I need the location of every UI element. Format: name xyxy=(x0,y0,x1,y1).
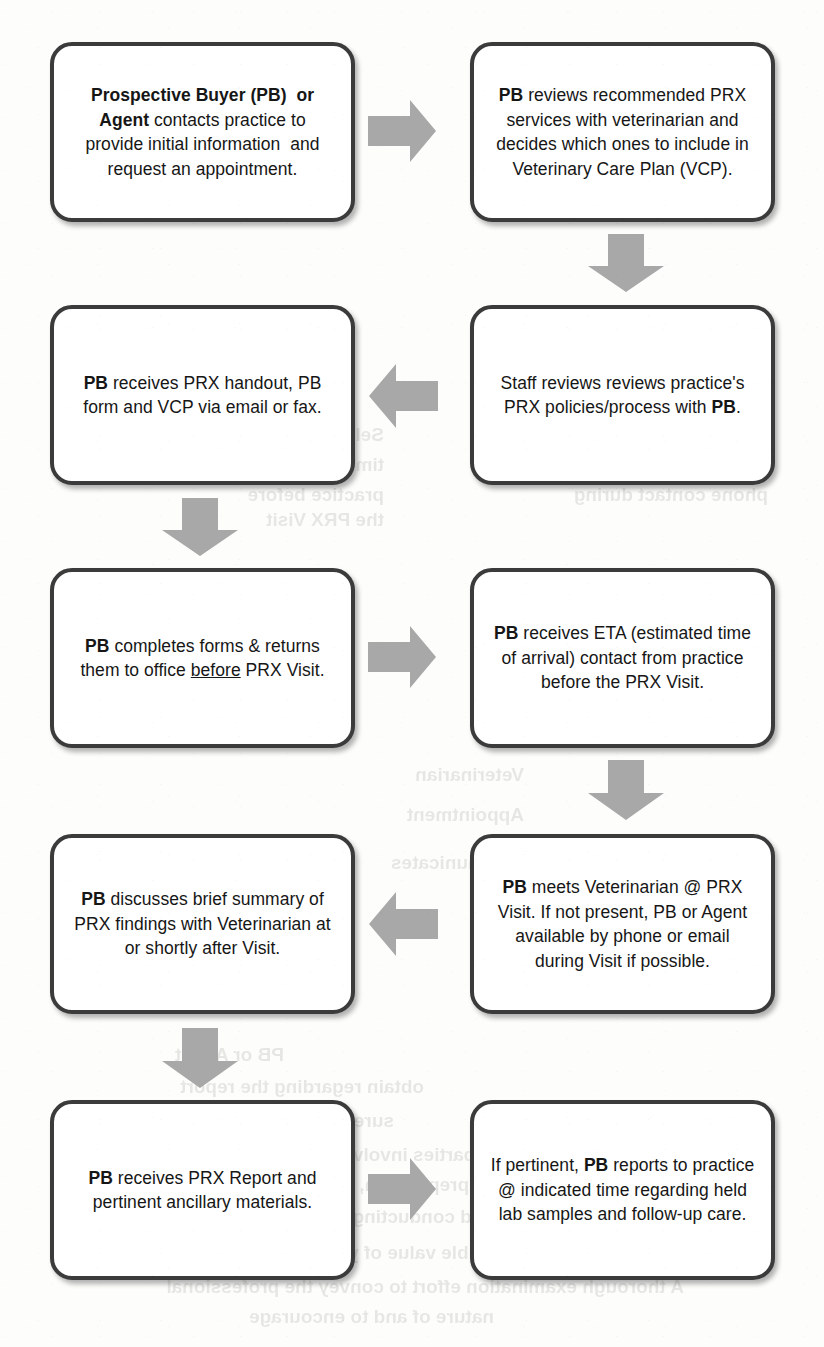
arrow-right-5 xyxy=(366,624,438,690)
arrow-down-6 xyxy=(586,758,666,822)
flow-node-9-text: PB receives PRX Report and pertinent anc… xyxy=(70,1166,335,1215)
arrow-down-4 xyxy=(160,496,240,558)
flow-node-8[interactable]: PB discusses brief summary of PRX findin… xyxy=(50,834,355,1014)
flow-node-2-text: PB reviews recommended PRX services with… xyxy=(490,83,755,181)
flow-node-5[interactable]: PB completes forms & returns them to off… xyxy=(50,568,355,748)
flow-node-1[interactable]: Prospective Buyer (PB) or Agent contacts… xyxy=(50,42,355,222)
flow-node-8-text: PB discusses brief summary of PRX findin… xyxy=(70,887,335,961)
arrow-right-9 xyxy=(366,1156,438,1222)
flow-node-7[interactable]: PB meets Veterinarian @ PRX Visit. If no… xyxy=(470,834,775,1014)
bleedthrough-line: the PRX Visit xyxy=(266,505,384,535)
flow-node-4[interactable]: PB receives PRX handout, PB form and VCP… xyxy=(50,305,355,485)
flow-node-2[interactable]: PB reviews recommended PRX services with… xyxy=(470,42,775,222)
arrow-right-1 xyxy=(366,98,438,164)
arrow-down-8 xyxy=(160,1026,240,1090)
flow-node-7-text: PB meets Veterinarian @ PRX Visit. If no… xyxy=(490,875,755,973)
flow-node-5-text: PB completes forms & returns them to off… xyxy=(70,634,335,683)
arrow-down-2 xyxy=(586,232,666,294)
arrow-left-3 xyxy=(366,362,440,430)
bleedthrough-line: Veterinarian xyxy=(415,760,524,790)
flowchart-page: Seller or Seller's Agent presentfor PRX … xyxy=(0,0,824,1347)
flow-node-10-text: If pertinent, PB reports to practice @ i… xyxy=(490,1153,755,1227)
flow-node-1-text: Prospective Buyer (PB) or Agent contacts… xyxy=(70,83,335,181)
flow-node-6[interactable]: PB receives ETA (estimated time of arriv… xyxy=(470,568,775,748)
flow-node-9[interactable]: PB receives PRX Report and pertinent anc… xyxy=(50,1100,355,1280)
arrow-left-7 xyxy=(366,890,440,958)
bleedthrough-line: nature of and to encourage xyxy=(249,1302,494,1332)
flow-node-6-text: PB receives ETA (estimated time of arriv… xyxy=(490,621,755,695)
bleedthrough-line: Appointment xyxy=(407,800,524,830)
flow-node-3-text: Staff reviews reviews practice's PRX pol… xyxy=(490,371,755,420)
flow-node-4-text: PB receives PRX handout, PB form and VCP… xyxy=(70,371,335,420)
flow-node-3[interactable]: Staff reviews reviews practice's PRX pol… xyxy=(470,305,775,485)
flow-node-10[interactable]: If pertinent, PB reports to practice @ i… xyxy=(470,1100,775,1280)
